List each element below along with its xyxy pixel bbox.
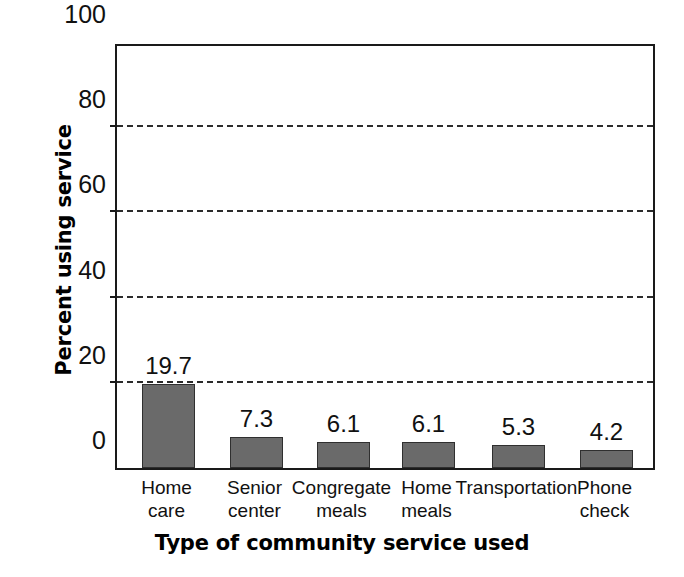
category-label-line: meals [352,499,502,522]
y-tick-mark-80 [110,125,117,127]
gridline-40 [117,296,653,298]
category-label: Phonecheck [530,476,680,522]
gridline-80 [117,125,653,127]
bar: 5.3 [492,445,545,468]
category-label-line: check [530,499,680,522]
plot-area: 02040608010019.77.36.16.15.34.2 [115,44,655,470]
y-tick-label-100: 100 [64,0,106,29]
bar-chart: Percent using service 02040608010019.77.… [0,0,684,577]
bar: 19.7 [142,384,195,468]
bar-value-label: 19.7 [145,352,192,380]
y-tick-label-40: 40 [78,255,106,284]
bar-value-label: 4.2 [590,418,623,446]
bar-value-label: 7.3 [240,405,273,433]
bar: 6.1 [317,442,370,468]
bar-value-label: 5.3 [502,413,535,441]
gridline-20 [117,381,653,383]
y-tick-label-20: 20 [78,340,106,369]
y-tick-label-80: 80 [78,85,106,114]
bar-value-label: 6.1 [327,410,360,438]
gridline-60 [117,210,653,212]
bar-value-label: 6.1 [412,410,445,438]
y-axis-title: Percent using service [52,80,76,420]
bar: 4.2 [580,450,633,468]
bar: 7.3 [230,437,283,468]
category-label-line: Phone [530,476,680,499]
y-tick-label-0: 0 [92,426,106,455]
y-tick-mark-60 [110,210,117,212]
x-axis-title: Type of community service used [0,531,684,555]
y-tick-mark-40 [110,296,117,298]
y-tick-mark-20 [110,381,117,383]
bar: 6.1 [402,442,455,468]
y-tick-label-60: 60 [78,170,106,199]
